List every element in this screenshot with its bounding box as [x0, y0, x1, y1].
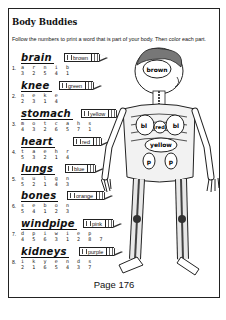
item-number: 2.: [12, 93, 16, 99]
order-numbers: 4 3 2 6 5 7 1: [21, 126, 94, 132]
answer-word: heart: [21, 137, 55, 148]
label-lung-right: bl: [173, 122, 179, 129]
label-stomach: yellow: [150, 141, 172, 149]
item-number: 6.: [12, 203, 16, 209]
answer-word: knee: [21, 81, 52, 92]
label-brain: brown: [146, 66, 167, 73]
crayon-color-label: red: [73, 137, 93, 146]
answer-word: stomach: [21, 109, 73, 120]
answer-word: bones: [21, 191, 58, 202]
answer-word: kidneys: [21, 247, 69, 258]
item-number: 1.: [12, 65, 16, 71]
label-lung-left: bl: [141, 122, 147, 129]
item-number: 5.: [12, 176, 16, 182]
answer-word: lungs: [21, 164, 55, 175]
crayon-color-label: orange: [67, 191, 96, 200]
order-numbers: 2 1 6 5 4 3 7: [21, 264, 94, 270]
crayon-color-label: blue: [65, 164, 87, 173]
label-kidney-right: p: [169, 158, 174, 166]
order-numbers: 5 3 2 1 4: [21, 154, 72, 160]
crayon-icon: blue: [65, 164, 104, 173]
item-number: 7.: [12, 231, 16, 237]
item-number: 8.: [12, 259, 16, 265]
label-heart: red: [155, 124, 165, 130]
order-numbers: 2 3 1 4: [21, 98, 60, 104]
instructions: Follow the numbers to print a word that …: [12, 36, 217, 42]
crayon-icon: green: [59, 81, 102, 90]
crayon-color-label: brown: [64, 53, 91, 62]
page-title: Body Buddies: [12, 17, 77, 27]
order-numbers: 3 2 5 4 1: [21, 70, 72, 76]
item-number: 4.: [12, 149, 16, 155]
label-kidney-left: p: [147, 158, 152, 166]
body-illustration: brown bl red bl yellow p p: [101, 47, 221, 279]
crayon-color-label: green: [59, 81, 85, 90]
order-numbers: 5 4 1 2 3: [21, 208, 72, 214]
item-number: 3.: [12, 121, 16, 127]
answer-word: windpipe: [21, 219, 77, 230]
order-numbers: 4 5 6 3 1 2 8 7: [21, 236, 105, 242]
answer-word: brain: [21, 53, 54, 64]
page-number: Page 176: [9, 279, 219, 290]
worksheet-page: Body Buddies Follow the numbers to print…: [8, 8, 220, 298]
order-numbers: 5 2 1 4 3: [21, 181, 72, 187]
